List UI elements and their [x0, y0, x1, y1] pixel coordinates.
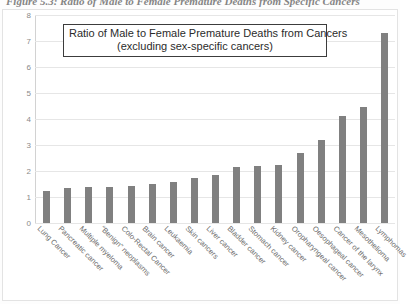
- bar[interactable]: [106, 187, 113, 223]
- y-axis-tick-label: 5: [27, 89, 31, 98]
- chart-subtitle: (excluding sex-specific cancers): [69, 40, 321, 53]
- bar[interactable]: [233, 167, 240, 223]
- bar[interactable]: [339, 116, 346, 223]
- bar[interactable]: [170, 182, 177, 223]
- bar-slot: [353, 15, 374, 223]
- bar[interactable]: [191, 178, 198, 223]
- bar[interactable]: [85, 187, 92, 223]
- bar[interactable]: [254, 166, 261, 223]
- chart-title-box: Ratio of Male to Female Premature Deaths…: [63, 24, 327, 57]
- bar[interactable]: [64, 188, 71, 223]
- y-axis-tick-label: 2: [27, 167, 31, 176]
- figure-caption: Figure 5.3: Ratio of Male to Female Prem…: [6, 0, 360, 7]
- bar[interactable]: [212, 175, 219, 223]
- figure-caption-strip: Figure 5.3: Ratio of Male to Female Prem…: [0, 0, 400, 8]
- y-axis-tick-label: 0: [27, 219, 31, 228]
- chart-title: Ratio of Male to Female Premature Deaths…: [69, 27, 321, 40]
- y-axis-tick-label: 3: [27, 141, 31, 150]
- bar[interactable]: [43, 191, 50, 223]
- y-axis-tick-label: 1: [27, 193, 31, 202]
- bar[interactable]: [318, 140, 325, 223]
- bar-slot: [36, 15, 57, 223]
- bar-slot: [332, 15, 353, 223]
- y-axis-tick-label: 4: [27, 115, 31, 124]
- bar[interactable]: [381, 33, 388, 223]
- bar[interactable]: [128, 186, 135, 223]
- bar[interactable]: [360, 107, 367, 223]
- bar-slot: [374, 15, 395, 223]
- y-axis-tick-label: 8: [27, 11, 31, 20]
- chart-frame: 012345678 Ratio of Male to Female Premat…: [2, 9, 398, 301]
- y-axis-tick-label: 6: [27, 63, 31, 72]
- bar[interactable]: [297, 153, 304, 223]
- bar[interactable]: [149, 184, 156, 223]
- y-axis-tick-label: 7: [27, 37, 31, 46]
- x-axis-tick-labels: Lung CancerPancreatic cancerMultiple mye…: [36, 224, 396, 304]
- bar[interactable]: [275, 165, 282, 223]
